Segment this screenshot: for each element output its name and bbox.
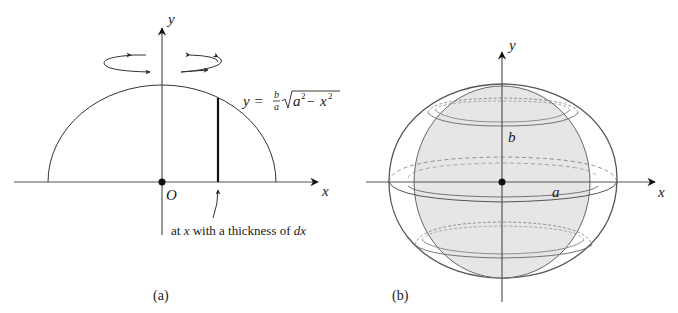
equation-exp2: 2 [328,91,333,101]
panel-a: y x O y = b a a 2 − x 2 at x with a thic… [14,11,340,304]
origin-label: O [166,187,177,203]
equation-minus: − [307,94,315,109]
slice-annotation: at x with a thickness of dx [171,223,306,238]
x-axis-label-b: x [657,184,665,200]
x-axis-label-a: x [321,183,329,199]
caption-a: (a) [153,288,169,304]
curve-equation: y = b a a 2 − x 2 [241,89,340,112]
y-axis-label-a: y [166,11,175,27]
figure-canvas: y x O y = b a a 2 − x 2 at x with a thic… [0,0,678,313]
rotation-arrows-icon [104,55,222,72]
equation-exp1: 2 [301,91,306,101]
annotation-middle: with a thickness of [189,223,293,238]
annotation-diff: dx [294,223,307,238]
equation-frac-den: a [274,101,279,112]
equation-lhs: y = [241,93,264,109]
equation-radicand-x: x [319,93,327,109]
equation-radicand-a: a [293,93,301,109]
semi-axis-a-label: a [552,184,560,200]
semi-axis-b-label: b [508,129,516,145]
annotation-prefix: at [171,223,184,238]
origin-dot-a [159,179,166,186]
equation-frac-num: b [274,89,279,100]
y-axis-label-b: y [507,37,516,53]
annotation-arrow [213,190,218,218]
origin-dot-b [499,179,506,186]
panel-b: y x b a (b) [366,37,665,304]
caption-b: (b) [392,288,409,304]
